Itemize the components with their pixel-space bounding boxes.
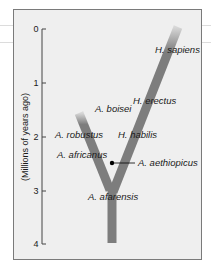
- aethiopicus-node-dot: [110, 161, 114, 165]
- species-label-africanus: A. africanus: [56, 149, 107, 160]
- tick-label: 0: [33, 24, 38, 34]
- species-label-afarensis: A. afarensis: [87, 191, 138, 202]
- tick-label: 1: [33, 78, 38, 88]
- species-label-robustus: A. robustus: [54, 129, 103, 140]
- axis-ticks: [42, 29, 46, 244]
- tick-label: 3: [33, 186, 38, 196]
- species-label-sapiens: H. sapiens: [155, 44, 200, 55]
- species-label-erectus: H. erectus: [133, 95, 177, 106]
- phylogeny-diagram: 0 1 2 3 4 (Millions of years ago) H. sap…: [0, 0, 211, 270]
- species-label-aethiopicus: A. aethiopicus: [137, 157, 198, 168]
- tick-label: 4: [33, 239, 38, 249]
- axis-title: (Millions of years ago): [20, 93, 30, 181]
- species-label-habilis: H. habilis: [118, 129, 157, 140]
- tick-label: 2: [33, 132, 38, 142]
- species-label-boisei: A. boisei: [94, 103, 132, 114]
